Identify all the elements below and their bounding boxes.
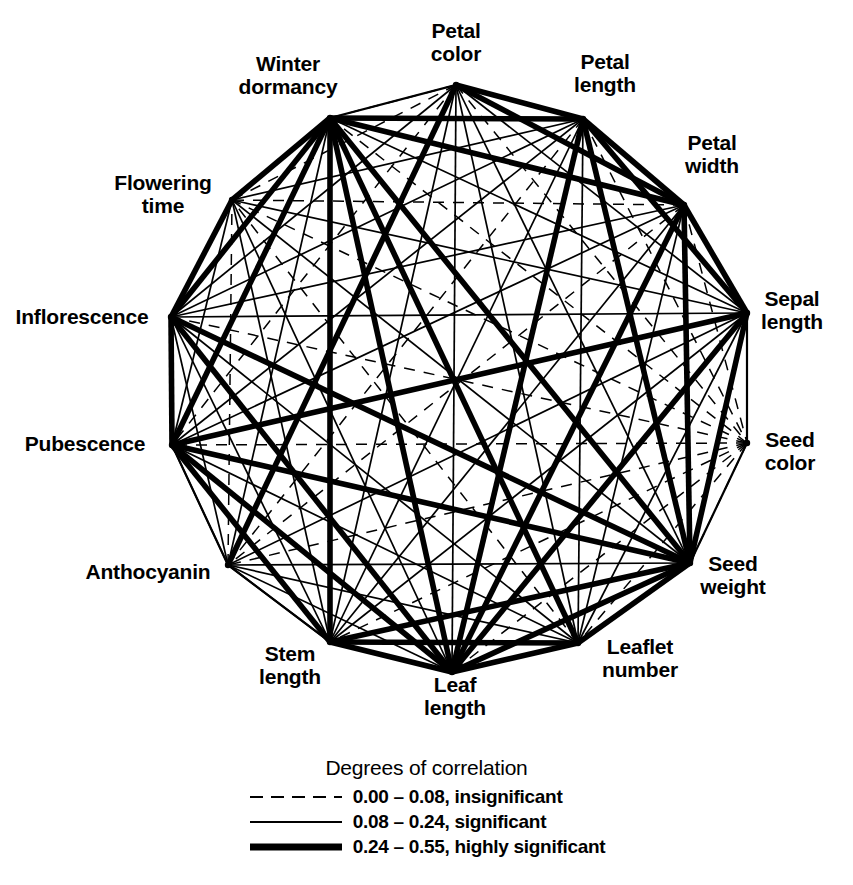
vertex-winter_dormancy[interactable] [327,115,333,121]
vertex-flowering_time[interactable] [229,197,235,203]
edge-petal_length-leaflet_number [578,119,583,643]
vertex-inflorescence[interactable] [168,314,174,320]
vertex-petal_width[interactable] [681,202,687,208]
correlation-network-figure: Petal colorPetal lengthPetal widthSepal … [0,0,853,885]
edge-petal_length-winter_dormancy [330,118,583,119]
vertex-leaf_length[interactable] [449,669,455,675]
vertex-petal_length[interactable] [580,116,586,122]
edge-petal_color-anthocyanin [228,85,456,565]
network-graph [0,0,853,760]
legend-entries: 0.00 – 0.08, insignificant0.08 – 0.24, s… [248,784,606,859]
vertex-seed_weight[interactable] [687,560,693,566]
legend-entry-thin: 0.08 – 0.24, significant [248,809,606,834]
legend-swatch-thick [248,840,344,854]
legend-entry-dashed: 0.00 – 0.08, insignificant [248,784,606,809]
vertex-seed_color[interactable] [744,440,750,446]
edge-seed_weight-anthocyanin [228,563,690,565]
edge-anthocyanin-flowering_time [228,200,232,565]
legend-swatch-dashed [248,790,344,804]
legend: Degrees of correlation 0.00 – 0.08, insi… [0,756,853,859]
vertex-anthocyanin[interactable] [225,562,231,568]
vertex-leaflet_number[interactable] [575,640,581,646]
edge-petal_width-flowering_time [232,200,684,205]
legend-entry-thick: 0.24 – 0.55, highly significant [248,834,606,859]
edge-leaflet_number-stem_length [330,642,578,643]
legend-swatch-thin [248,815,344,829]
vertex-petal_color[interactable] [453,82,459,88]
edge-stem_length-inflorescence [171,317,330,642]
vertex-sepal_length[interactable] [744,310,750,316]
vertex-stem_length[interactable] [327,639,333,645]
legend-label-thick: 0.24 – 0.55, highly significant [353,836,606,858]
legend-label-thin: 0.08 – 0.24, significant [353,811,546,833]
legend-label-dashed: 0.00 – 0.08, insignificant [353,786,563,808]
legend-title: Degrees of correlation [0,756,853,780]
vertex-pubescence[interactable] [169,442,175,448]
edge-petal_color-petal_width [456,85,684,205]
